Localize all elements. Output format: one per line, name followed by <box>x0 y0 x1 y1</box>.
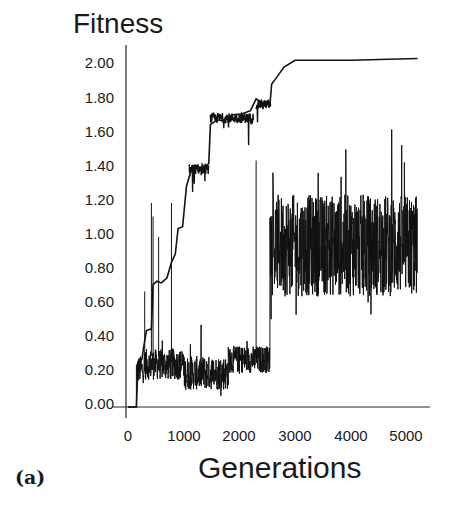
y-tick: 0.80 <box>68 259 114 276</box>
y-tick: 0.60 <box>68 293 114 310</box>
y-tick: 0.40 <box>68 327 114 344</box>
y-tick: 0.00 <box>68 395 114 412</box>
y-tick: 1.60 <box>68 123 114 140</box>
y-tick: 0.20 <box>68 361 114 378</box>
x-tick: 3000 <box>265 427 325 444</box>
x-axis-label: Generations <box>198 451 361 485</box>
y-tick: 1.80 <box>68 89 114 106</box>
x-tick: 4000 <box>321 427 381 444</box>
y-tick: 2.00 <box>68 54 114 71</box>
x-tick: 5000 <box>376 427 436 444</box>
y-tick: 1.40 <box>68 157 114 174</box>
y-tick: 1.00 <box>68 225 114 242</box>
x-tick: 1000 <box>154 427 214 444</box>
panel-label: (a) <box>15 466 45 488</box>
chart-title: Fitness <box>73 8 163 40</box>
x-tick: 2000 <box>209 427 269 444</box>
y-tick: 1.20 <box>68 191 114 208</box>
x-tick: 0 <box>98 427 158 444</box>
